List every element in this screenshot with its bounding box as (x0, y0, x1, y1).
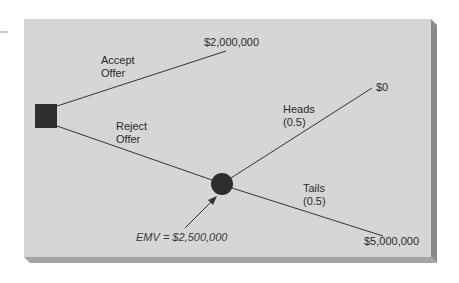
reject-label-line2: Offer (116, 133, 141, 145)
tails-label-line2: (0.5) (303, 195, 326, 207)
accept-label-line2: Offer (101, 67, 126, 79)
accept-label-line1: Accept (101, 54, 135, 66)
accept-payoff: $2,000,000 (204, 36, 259, 48)
emv-annotation: EMV = $2,500,000 (136, 231, 228, 243)
decision-tree-diagram: Accept Offer $2,000,000 Reject Offer Hea… (0, 0, 459, 283)
panel-side-shade (431, 19, 437, 263)
panel-bottom-shade (24, 257, 437, 263)
decision-node-square (35, 104, 57, 128)
panel-face (24, 19, 431, 257)
heads-label-line2: (0.5) (283, 116, 306, 128)
tails-label-line1: Tails (303, 182, 326, 194)
chance-node-circle (211, 173, 233, 195)
heads-payoff: $0 (376, 81, 388, 93)
tails-payoff: $5,000,000 (364, 235, 419, 247)
heads-label-line1: Heads (283, 103, 315, 115)
reject-label-line1: Reject (116, 120, 147, 132)
